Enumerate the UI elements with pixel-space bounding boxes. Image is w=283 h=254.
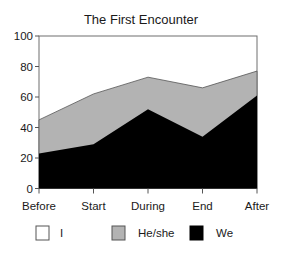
legend-item-we: We bbox=[190, 226, 233, 240]
plot-area bbox=[39, 36, 257, 189]
x-axis: BeforeStartDuringEndAfter bbox=[22, 189, 269, 212]
y-tick-label: 20 bbox=[20, 152, 33, 164]
y-tick-label: 100 bbox=[14, 30, 33, 42]
y-tick-label: 0 bbox=[27, 183, 33, 195]
y-tick-label: 40 bbox=[20, 122, 33, 134]
y-axis: 020406080100 bbox=[14, 30, 39, 195]
x-tick-label: After bbox=[245, 200, 269, 212]
legend-item-he-she: He/she bbox=[112, 226, 174, 240]
area-chart: The First Encounter 020406080100 BeforeS… bbox=[0, 0, 283, 254]
legend-label-he-she: He/she bbox=[138, 227, 174, 239]
legend-item-i: I bbox=[36, 226, 63, 240]
chart-title: The First Encounter bbox=[84, 12, 199, 27]
x-tick-label: Start bbox=[81, 200, 106, 212]
legend-label-we: We bbox=[216, 227, 233, 239]
y-tick-label: 80 bbox=[20, 61, 33, 73]
legend-swatch-i bbox=[36, 226, 49, 240]
y-tick-label: 60 bbox=[20, 91, 33, 103]
x-tick-label: During bbox=[131, 200, 165, 212]
x-tick-label: End bbox=[192, 200, 212, 212]
legend: I He/she We bbox=[36, 226, 233, 240]
legend-label-i: I bbox=[60, 227, 63, 239]
legend-swatch-we bbox=[190, 226, 203, 240]
legend-swatch-he-she bbox=[112, 226, 125, 240]
x-tick-label: Before bbox=[22, 200, 56, 212]
